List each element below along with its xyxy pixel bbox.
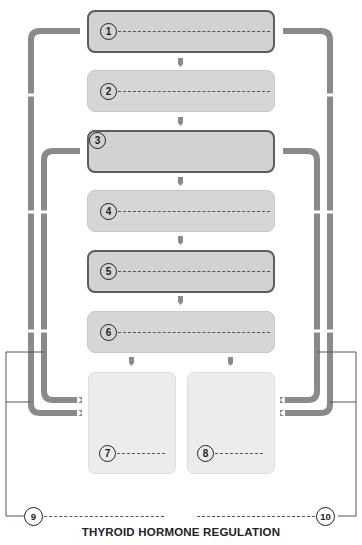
box-8: 8 (187, 372, 275, 474)
callout-number-10: 10 (316, 507, 335, 526)
step-number-7: 7 (99, 445, 116, 462)
box-3: 3 (87, 130, 275, 173)
placeholder-line (215, 453, 263, 454)
placeholder-line (44, 516, 164, 517)
step-number-4: 4 (100, 203, 117, 220)
box-4: 4 (87, 190, 275, 232)
box-6: 6 (87, 311, 275, 353)
placeholder-line (118, 211, 270, 212)
box-2: 2 (87, 70, 275, 112)
placeholder-line (118, 31, 270, 32)
placeholder-line (197, 516, 315, 517)
step-number-1: 1 (100, 23, 117, 40)
box-1: 1 (87, 10, 275, 53)
callout-brackets (6, 352, 356, 516)
box-5: 5 (87, 250, 275, 293)
box-7: 7 (88, 372, 176, 474)
callout-number-9: 9 (24, 507, 43, 526)
placeholder-line (118, 332, 270, 333)
step-number-3: 3 (89, 132, 106, 149)
callout-9: 9 (24, 507, 164, 526)
step-number-8: 8 (197, 445, 214, 462)
placeholder-line (118, 91, 270, 92)
diagram-title: THYROID HORMONE REGULATION (0, 526, 362, 538)
step-number-6: 6 (100, 324, 117, 341)
placeholder-line (117, 453, 165, 454)
step-number-5: 5 (100, 263, 117, 280)
step-number-2: 2 (100, 83, 117, 100)
callout-10: 10 (197, 507, 335, 526)
placeholder-line (118, 271, 270, 272)
